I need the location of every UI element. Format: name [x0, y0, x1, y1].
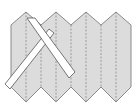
- diagram-canvas: [0, 0, 140, 112]
- folded-paper-diagram: [0, 0, 140, 112]
